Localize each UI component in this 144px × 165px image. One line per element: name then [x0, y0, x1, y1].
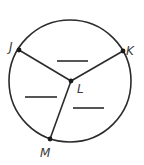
- label-j: J: [7, 40, 13, 54]
- point-m: [48, 137, 53, 142]
- point-k: [121, 49, 126, 54]
- label-m: M: [40, 146, 51, 160]
- radius-lk: [71, 51, 123, 81]
- label-k: K: [126, 44, 135, 58]
- circle-diagram: J K L M: [0, 0, 144, 165]
- radius-lm: [50, 81, 71, 139]
- label-l: L: [77, 82, 84, 96]
- radius-lj: [19, 50, 71, 81]
- point-l: [69, 79, 74, 84]
- point-j: [17, 48, 22, 53]
